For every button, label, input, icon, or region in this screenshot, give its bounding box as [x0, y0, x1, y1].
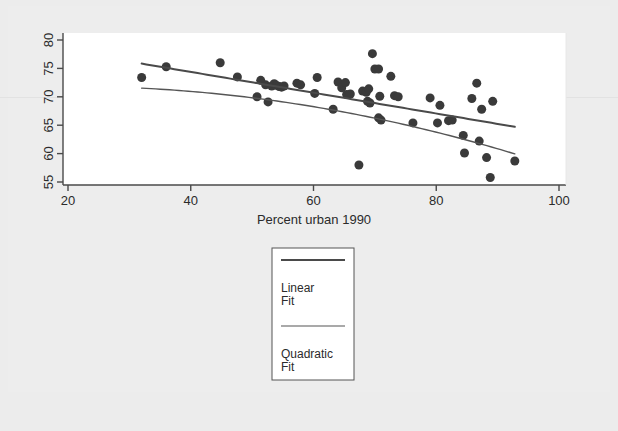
data-point [510, 156, 519, 165]
data-point [433, 118, 442, 127]
x-axis-tick-labels: 20406080100 [61, 193, 570, 208]
data-point [137, 73, 146, 82]
data-point [477, 105, 486, 114]
data-point [313, 73, 322, 82]
y-tick-label: 60 [41, 146, 56, 160]
data-point [375, 92, 384, 101]
data-point [394, 92, 403, 101]
legend: Linear Fit Quadratic Fit [272, 248, 354, 380]
data-point [253, 92, 262, 101]
data-point [435, 101, 444, 110]
x-tick-label: 40 [184, 193, 198, 208]
data-point [426, 93, 435, 102]
data-point [354, 160, 363, 169]
scatter-chart: 556065707580 20406080100 Percent urban 1… [0, 0, 618, 431]
data-point [341, 78, 350, 87]
x-axis-title: Percent urban 1990 [257, 212, 371, 227]
x-tick-label: 60 [306, 193, 320, 208]
y-tick-label: 70 [41, 90, 56, 104]
plot-area [63, 33, 566, 185]
data-point [296, 80, 305, 89]
y-tick-label: 55 [41, 175, 56, 189]
legend-label-quadratic-line1: Quadratic [281, 347, 333, 361]
data-point [460, 149, 469, 158]
y-tick-label: 75 [41, 61, 56, 75]
data-point [488, 97, 497, 106]
x-tick-label: 20 [61, 193, 75, 208]
data-point [368, 49, 377, 58]
data-point [472, 79, 481, 88]
y-axis-tick-labels: 556065707580 [41, 33, 56, 189]
x-tick-label: 80 [429, 193, 443, 208]
legend-label-linear-line2: Fit [281, 294, 295, 308]
figure-root: 556065707580 20406080100 Percent urban 1… [0, 0, 618, 431]
data-point [482, 153, 491, 162]
y-tick-label: 65 [41, 118, 56, 132]
data-point [346, 89, 355, 98]
data-point [467, 94, 476, 103]
y-tick-label: 80 [41, 33, 56, 47]
x-tick-label: 100 [548, 193, 570, 208]
data-point [374, 64, 383, 73]
data-point [216, 58, 225, 67]
legend-label-quadratic-line2: Fit [281, 360, 295, 374]
data-point [364, 84, 373, 93]
legend-label-linear-line1: Linear [281, 281, 314, 295]
data-point [486, 173, 495, 182]
data-point [386, 72, 395, 81]
